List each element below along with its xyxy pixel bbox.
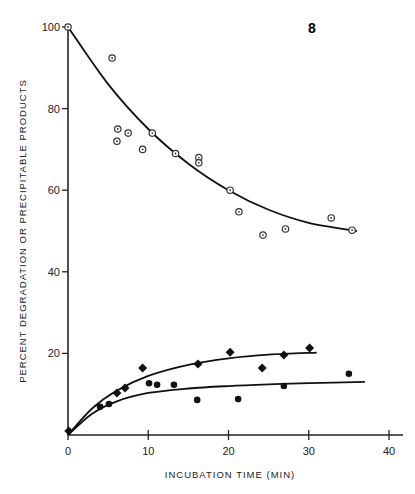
- data-point-diamond: [112, 388, 121, 397]
- data-point-diamond: [64, 426, 73, 435]
- data-point-center: [175, 153, 177, 155]
- axes: 01020304020406080100: [42, 21, 403, 457]
- data-point-diamond: [138, 364, 147, 373]
- y-tick-label: 100: [42, 21, 60, 33]
- data-point-diamond: [279, 351, 288, 360]
- data-point-filled: [154, 382, 161, 389]
- data-point-filled: [235, 396, 242, 403]
- data-point-center: [151, 132, 153, 134]
- data-point-center: [116, 140, 118, 142]
- data-point-center: [198, 157, 200, 159]
- figure-annotation: 8: [308, 20, 316, 36]
- data-point-diamond: [258, 364, 267, 373]
- data-point-center: [67, 26, 69, 28]
- data-point-center: [285, 228, 287, 230]
- data-point-center: [330, 217, 332, 219]
- x-tick-label: 30: [303, 445, 315, 457]
- fit-curve: [68, 382, 365, 435]
- data-points: [64, 24, 355, 436]
- data-point-filled: [97, 404, 104, 411]
- data-point-center: [198, 162, 200, 164]
- y-tick-label: 60: [48, 184, 60, 196]
- y-tick-label: 80: [48, 103, 60, 115]
- x-tick-label: 0: [65, 445, 71, 457]
- data-point-filled: [194, 397, 201, 404]
- data-point-filled: [106, 401, 113, 408]
- data-point-center: [262, 234, 264, 236]
- data-point-filled: [281, 383, 288, 390]
- data-point-filled: [346, 371, 353, 378]
- y-tick-label: 40: [48, 266, 60, 278]
- chart: 01020304020406080100 INCUBATION TIME (MI…: [0, 0, 415, 494]
- data-point-center: [127, 132, 129, 134]
- y-tick-label: 20: [48, 347, 60, 359]
- data-point-center: [117, 128, 119, 130]
- fit-curves: [68, 27, 365, 435]
- data-point-diamond: [305, 344, 314, 353]
- data-point-center: [229, 189, 231, 191]
- data-point-center: [111, 57, 113, 59]
- x-tick-label: 10: [142, 445, 154, 457]
- x-tick-label: 20: [222, 445, 234, 457]
- fit-curve: [68, 353, 317, 435]
- y-axis-label: PERCENT DEGRADATION OR PRECIPITABLE PROD…: [17, 79, 28, 383]
- data-point-center: [238, 211, 240, 213]
- data-point-filled: [146, 380, 153, 387]
- x-axis-label: INCUBATION TIME (MIN): [165, 469, 295, 480]
- data-point-filled: [171, 382, 178, 389]
- data-point-diamond: [194, 360, 203, 369]
- data-point-center: [142, 149, 144, 151]
- data-point-diamond: [226, 348, 235, 357]
- x-tick-label: 40: [383, 445, 395, 457]
- data-point-center: [351, 229, 353, 231]
